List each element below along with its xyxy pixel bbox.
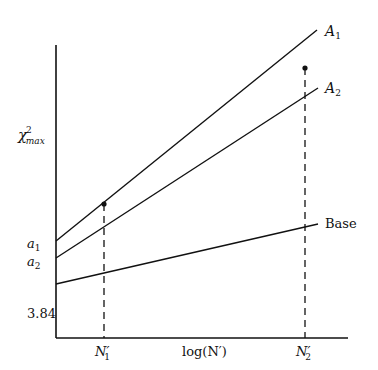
marker-a1-n1 (101, 201, 106, 206)
x-tick-n2: N′2 (295, 344, 311, 362)
line-a1 (56, 30, 317, 241)
y-tick-a1: a1 (27, 236, 41, 253)
label-a2: A2 (323, 80, 341, 98)
label-base: Base (325, 216, 357, 231)
x-axis-label: log(N′) (182, 344, 227, 359)
marker-a2-n2 (302, 65, 307, 70)
y-tick-a2: a2 (27, 254, 41, 271)
chi-square-diagram: χ2max a1 a2 3.84 N′1 log(N′) N′2 A1 A2 B… (0, 0, 378, 370)
label-a1: A1 (323, 23, 341, 41)
y-axis-label: χ2max (17, 125, 45, 146)
y-tick-3-84: 3.84 (27, 306, 56, 321)
x-tick-n1: N′1 (94, 344, 110, 362)
